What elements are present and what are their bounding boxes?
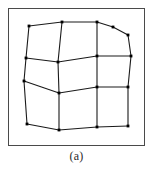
mesh-node bbox=[23, 80, 26, 83]
mesh-node bbox=[58, 92, 61, 95]
mesh-node bbox=[28, 25, 31, 28]
mesh-node bbox=[58, 129, 61, 132]
mesh-node bbox=[127, 125, 130, 128]
mesh-node bbox=[61, 21, 64, 24]
mesh-figure bbox=[0, 0, 153, 150]
mesh-node bbox=[25, 57, 28, 60]
mesh-node bbox=[57, 61, 60, 64]
mesh-node bbox=[96, 21, 99, 24]
mesh-node bbox=[127, 34, 130, 37]
mesh-node bbox=[96, 126, 99, 129]
figure-caption: (a) bbox=[0, 148, 153, 164]
mesh-node bbox=[96, 86, 99, 89]
mesh-node bbox=[127, 86, 130, 89]
mesh-node bbox=[130, 55, 133, 58]
mesh-node bbox=[96, 55, 99, 58]
mesh-node bbox=[26, 123, 29, 126]
figure-panel: (a) bbox=[0, 0, 153, 172]
mesh-node bbox=[112, 26, 115, 29]
